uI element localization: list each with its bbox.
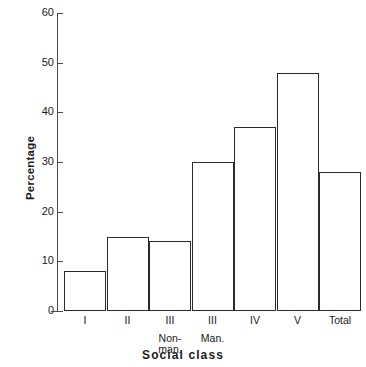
bar[interactable] <box>64 271 106 311</box>
y-axis-tick-label: 0 <box>14 305 54 316</box>
bar[interactable] <box>107 237 149 312</box>
x-axis-label: Total <box>308 315 366 327</box>
y-axis-tick-label: 60 <box>14 7 54 18</box>
bar[interactable] <box>234 127 276 311</box>
x-axis-label-line: Total <box>308 315 366 327</box>
y-axis-tick-label: 50 <box>14 57 54 68</box>
bar[interactable] <box>277 73 319 311</box>
y-axis-tick-label: 10 <box>14 255 54 266</box>
x-axis-zero-tick <box>51 311 58 312</box>
bar-chart: Percentage 0102030405060 IIIIIINon-man.I… <box>0 0 366 367</box>
bar[interactable] <box>149 241 191 311</box>
y-axis-tick-label: 40 <box>14 106 54 117</box>
y-axis-tick-label: 20 <box>14 206 54 217</box>
bar[interactable] <box>192 162 234 311</box>
y-axis-tick-label: 30 <box>14 156 54 167</box>
plot-area <box>58 13 358 311</box>
x-axis-label-line: Man. <box>181 333 245 345</box>
x-axis-title: Social class <box>0 348 366 362</box>
bar[interactable] <box>319 172 361 311</box>
